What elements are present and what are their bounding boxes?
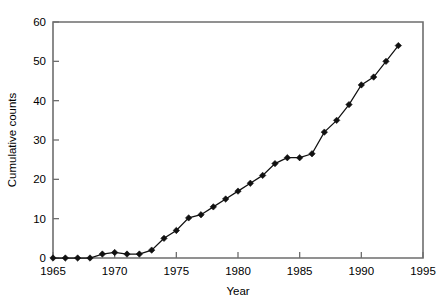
- x-tick-label: 1990: [349, 265, 375, 277]
- data-point-marker: [111, 249, 117, 255]
- data-point-marker: [136, 251, 142, 257]
- x-tick-label: 1985: [287, 265, 313, 277]
- data-point-marker: [296, 155, 302, 161]
- x-tick-label: 1980: [225, 265, 251, 277]
- data-point-marker: [358, 82, 364, 88]
- data-point-marker: [99, 251, 105, 257]
- data-series: [53, 46, 398, 258]
- y-tick-label: 40: [33, 95, 46, 107]
- y-tick-label: 20: [33, 173, 46, 185]
- data-point-marker: [235, 188, 241, 194]
- x-tick-label: 1970: [102, 265, 128, 277]
- y-axis-title: Cumulative counts: [6, 92, 18, 187]
- data-point-marker: [222, 196, 228, 202]
- data-point-marker: [309, 151, 315, 157]
- data-point-markers: [50, 42, 402, 261]
- y-tick-label: 30: [33, 134, 46, 146]
- x-tick-label: 1995: [410, 265, 436, 277]
- axis-tick-labels: 0102030405060196519701975198019851990199…: [33, 16, 436, 277]
- x-tick-label: 1975: [164, 265, 190, 277]
- y-tick-label: 60: [33, 16, 46, 28]
- axes: [53, 22, 423, 258]
- data-point-marker: [247, 180, 253, 186]
- data-point-marker: [284, 155, 290, 161]
- cumulative-counts-line-chart: 0102030405060196519701975198019851990199…: [0, 0, 439, 305]
- y-tick-label: 10: [33, 213, 46, 225]
- x-axis-title: Year: [226, 285, 249, 297]
- y-tick-label: 0: [40, 252, 46, 264]
- data-point-marker: [198, 212, 204, 218]
- data-point-marker: [210, 204, 216, 210]
- x-tick-label: 1965: [40, 265, 66, 277]
- data-point-marker: [50, 255, 56, 261]
- data-point-marker: [62, 255, 68, 261]
- axis-ticks: [53, 22, 423, 258]
- data-point-marker: [124, 251, 130, 257]
- y-tick-label: 50: [33, 55, 46, 67]
- data-point-marker: [87, 255, 93, 261]
- chart-page: 0102030405060196519701975198019851990199…: [0, 0, 439, 305]
- data-point-marker: [74, 255, 80, 261]
